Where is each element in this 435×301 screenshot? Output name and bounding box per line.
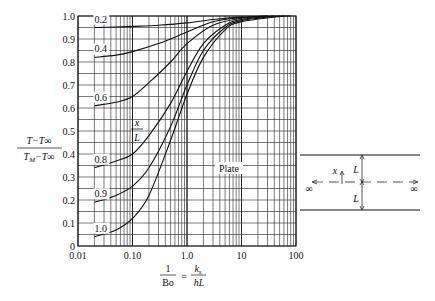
curve-label: 0.9 — [94, 188, 107, 199]
plate-label: Plate — [219, 163, 240, 174]
svg-text:x: x — [134, 117, 140, 128]
svg-text:L: L — [352, 193, 359, 204]
plate-diagram-labels: x L L ∞ ∞ — [305, 164, 417, 204]
svg-text:hL: hL — [194, 277, 205, 288]
curve-x-over-L-1.0 — [94, 16, 284, 237]
svg-text:L: L — [133, 132, 140, 143]
x-tick-label: 1.0 — [181, 250, 194, 261]
y-tick-label: 0.7 — [63, 80, 76, 91]
x-tick-label: 0.10 — [124, 250, 142, 261]
svg-text:=: = — [181, 271, 187, 282]
y-tick-label: 0.8 — [63, 57, 76, 68]
chart: 0.010.101.01010000.10.20.30.40.50.60.70.… — [0, 0, 435, 301]
y-tick-label: 0.1 — [63, 218, 76, 229]
svg-text:1: 1 — [166, 263, 171, 274]
svg-text:x: x — [332, 165, 338, 176]
y-tick-label: 0.2 — [63, 195, 76, 206]
plate-diagram — [300, 155, 420, 210]
y-tick-label: 0.4 — [63, 149, 76, 160]
grid-lines — [78, 16, 296, 246]
y-tick-label: 0.6 — [63, 103, 76, 114]
curve-label: 0.4 — [94, 43, 107, 54]
y-tick-label: 0.9 — [63, 34, 76, 45]
x-axis-label: 1 Bo = ks hL — [160, 263, 206, 288]
curve-label: 0.6 — [94, 92, 107, 103]
svg-text:TM−T∞: TM−T∞ — [24, 151, 55, 164]
svg-text:L: L — [352, 164, 359, 175]
x-tick-label: 100 — [289, 250, 304, 261]
curve-label: 1.0 — [94, 223, 107, 234]
svg-text:∞: ∞ — [305, 183, 312, 194]
y-tick-label: 0.5 — [63, 126, 76, 137]
x-tick-label: 10 — [237, 250, 247, 261]
curve-label: 0.8 — [94, 154, 107, 165]
curve-label: 0.2 — [94, 14, 107, 25]
svg-text:ks: ks — [194, 263, 201, 276]
svg-text:Bo: Bo — [162, 277, 174, 288]
y-tick-label: 0.3 — [63, 172, 76, 183]
x-tick-label: 0.01 — [69, 250, 87, 261]
svg-text:∞: ∞ — [410, 183, 417, 194]
svg-text:T−T∞: T−T∞ — [27, 135, 52, 146]
y-tick-label: 1.0 — [63, 11, 76, 22]
y-axis-label: T−T∞ TM−T∞ — [17, 135, 62, 164]
y-tick-label: 0 — [70, 241, 75, 252]
